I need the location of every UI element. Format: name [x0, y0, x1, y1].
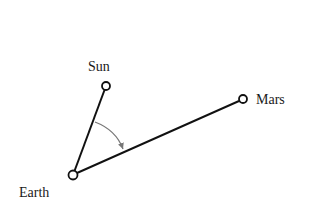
earth-mars-line [77, 101, 239, 173]
earth-label: Earth [19, 185, 49, 200]
sun-node-icon [102, 82, 110, 90]
angle-arc [95, 122, 123, 149]
sun-label: Sun [88, 59, 110, 74]
mars-node-icon [239, 95, 247, 103]
earth-sun-line [75, 90, 105, 171]
sun-earth-mars-diagram: Sun Mars Earth [0, 0, 316, 218]
diagram-canvas: Sun Mars Earth [0, 0, 316, 218]
mars-label: Mars [256, 92, 285, 107]
earth-node-icon [69, 171, 78, 180]
